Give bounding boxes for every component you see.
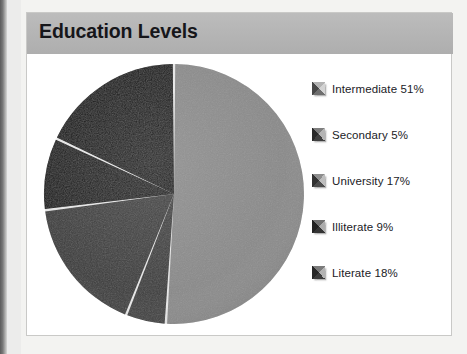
- legend-item-label: Secondary 5%: [332, 129, 408, 141]
- bevel-square-icon: [312, 266, 325, 279]
- legend-item-label: Intermediate 51%: [332, 83, 424, 95]
- legend-item-label: Literate 18%: [332, 267, 398, 279]
- title-band: Education Levels: [27, 13, 453, 54]
- bevel-square-icon: [312, 220, 325, 233]
- legend-item-illiterate[interactable]: Illiterate 9%: [312, 218, 447, 235]
- bevel-square-icon: [312, 82, 325, 95]
- legend-item-label: University 17%: [332, 175, 410, 187]
- legend-item-label: Illiterate 9%: [332, 221, 393, 233]
- pie-chart: Intermediate 51%Secondary 5%University 1…: [35, 58, 307, 334]
- legend-item-literate[interactable]: Literate 18%: [312, 264, 447, 281]
- legend-item-secondary[interactable]: Secondary 5%: [312, 126, 447, 143]
- page-title: Education Levels: [39, 20, 198, 43]
- pie-chart-svg: Intermediate 51%Secondary 5%University 1…: [35, 58, 307, 334]
- pie-slices: Intermediate 51%Secondary 5%University 1…: [44, 64, 304, 324]
- bevel-square-icon: [312, 174, 325, 187]
- plot-area: Intermediate 51%Secondary 5%University 1…: [27, 54, 451, 335]
- page-margin: [7, 0, 21, 354]
- legend-item-intermediate[interactable]: Intermediate 51%: [312, 80, 447, 97]
- chart-legend: Intermediate 51%Secondary 5%University 1…: [312, 80, 447, 310]
- legend-item-university[interactable]: University 17%: [312, 172, 447, 189]
- chart-figure: Education Levels: [26, 12, 452, 336]
- bevel-square-icon: [312, 128, 325, 141]
- pie-slice-intermediate[interactable]: Intermediate 51%: [167, 64, 304, 324]
- page-edge-artifact: [0, 0, 7, 354]
